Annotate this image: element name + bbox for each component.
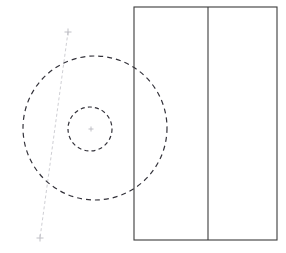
canvas-background	[0, 0, 286, 253]
drawing-canvas	[0, 0, 286, 253]
technical-drawing	[0, 0, 286, 253]
